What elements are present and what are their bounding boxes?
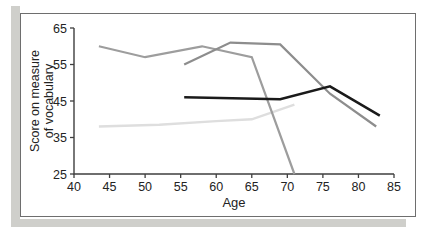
y-axis-title-line-2: of vocabulary — [42, 63, 56, 138]
series-black-line — [184, 86, 380, 115]
x-tick-label: 85 — [387, 180, 401, 194]
y-tick-label: 65 — [53, 22, 67, 36]
x-axis-title: Age — [222, 195, 245, 210]
x-tick-label: 70 — [280, 180, 294, 194]
x-tick-label: 60 — [209, 180, 223, 194]
series-gray-line-starting-age-43 — [99, 46, 295, 174]
x-tick-label: 55 — [174, 180, 188, 194]
y-axis-title-line-1: Score on measure — [28, 50, 42, 152]
x-tick-label: 65 — [245, 180, 259, 194]
vocabulary-line-chart: 404550556065707580852535455565AgeScore o… — [0, 0, 429, 229]
series-gray-line-starting-age-55 — [184, 43, 376, 127]
x-tick-label: 75 — [316, 180, 330, 194]
x-tick-label: 45 — [103, 180, 117, 194]
series-light-gray-line — [99, 105, 295, 127]
x-tick-label: 40 — [67, 180, 81, 194]
axes — [74, 28, 394, 174]
y-tick-label: 25 — [53, 168, 67, 182]
x-tick-label: 80 — [351, 180, 365, 194]
x-tick-label: 50 — [138, 180, 152, 194]
